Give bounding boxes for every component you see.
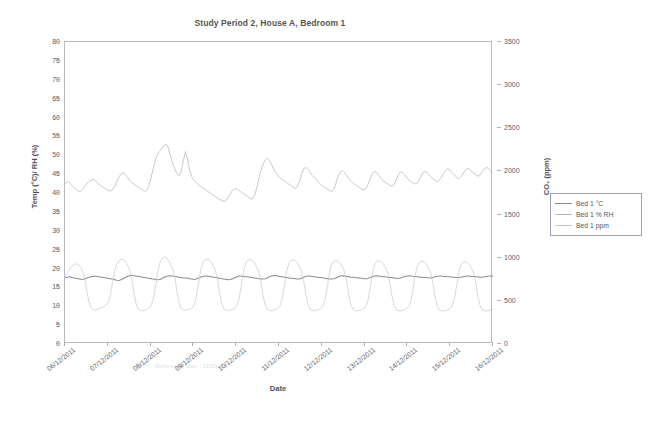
x-axis-tick-label: 15/12/2011 — [431, 346, 462, 372]
x-axis-tick-label: 14/12/2011 — [388, 346, 419, 372]
x-axis-tickmark — [278, 342, 279, 346]
x-axis-tickmark — [321, 342, 322, 346]
y-axis-right-tickmark — [497, 343, 501, 344]
y-axis-right-tickmark — [497, 257, 501, 258]
y-axis-left-tickmark — [56, 286, 60, 287]
y-axis-right-tickmark — [497, 84, 501, 85]
legend-label: Bed 1 ppm — [576, 222, 609, 229]
legend-label: Bed 1 % RH — [576, 211, 613, 218]
y-axis-right-ticks: 3500300025002000150010005000 — [497, 41, 537, 343]
x-axis-tickmark — [364, 342, 365, 346]
x-axis-tickmark — [235, 342, 236, 346]
x-axis-tickmark — [192, 342, 193, 346]
x-axis-tick-label: 16/12/2011 — [474, 346, 505, 372]
y-axis-right-tick: 2000 — [504, 167, 520, 174]
x-axis-tick-label: 13/12/2011 — [345, 346, 376, 372]
x-axis-tick-label: 07/12/2011 — [88, 346, 119, 372]
x-axis-tickmark — [449, 342, 450, 346]
x-axis-tick-label: 09/12/2011 — [174, 346, 205, 372]
y-axis-left-tickmark — [56, 211, 60, 212]
y-axis-left-tickmark — [56, 117, 60, 118]
y-axis-right-tick: 3000 — [504, 81, 520, 88]
legend-label: Bed 1 °C — [576, 200, 603, 207]
x-axis-tick-label: 06/12/2011 — [46, 346, 77, 372]
y-axis-left-tickmark — [56, 98, 60, 99]
y-axis-right-tickmark — [497, 170, 501, 171]
y-axis-left-tickmark — [56, 192, 60, 193]
y-axis-right-tick: 500 — [504, 296, 516, 303]
x-axis-tickmark — [406, 342, 407, 346]
x-axis-label: Date — [64, 384, 492, 393]
series-line — [65, 257, 493, 311]
y-axis-left-tickmark — [56, 230, 60, 231]
series-line — [65, 144, 493, 201]
y-axis-left-tickmark — [56, 60, 60, 61]
y-axis-right-tickmark — [497, 214, 501, 215]
plot-series-svg — [65, 42, 493, 344]
y-axis-left-tickmark — [56, 79, 60, 80]
x-axis-tickmark — [107, 342, 108, 346]
y-axis-left-tickmark — [56, 305, 60, 306]
legend-swatch — [555, 214, 572, 215]
legend-item[interactable]: Bed 1 ppm — [555, 220, 635, 231]
legend-item[interactable]: Bed 1 °C — [555, 198, 635, 209]
chart-figure: Study Period 2, House A, Bedroom 1 Temp … — [0, 0, 658, 422]
y-axis-left-tickmark — [56, 135, 60, 136]
legend-swatch — [555, 225, 572, 226]
x-axis-tickmark — [492, 342, 493, 346]
x-axis-tick-label: 12/12/2011 — [302, 346, 333, 372]
y-axis-right-tick: 0 — [504, 340, 508, 347]
x-axis-tick-label: 11/12/2011 — [260, 346, 290, 372]
chart-title: Study Period 2, House A, Bedroom 1 — [0, 18, 540, 28]
x-axis-tickmark — [64, 342, 65, 346]
y-axis-right-tickmark — [497, 300, 501, 301]
y-axis-left-tickmark — [56, 173, 60, 174]
x-axis-tickmark — [150, 342, 151, 346]
y-axis-right-tick: 1500 — [504, 210, 520, 217]
series-line — [65, 275, 493, 280]
chart-legend: Bed 1 °CBed 1 % RHBed 1 ppm — [550, 193, 642, 236]
y-axis-right-tick: 1000 — [504, 253, 520, 260]
x-axis-tick-label: 10/12/2011 — [217, 346, 248, 372]
y-axis-right-tick: 3500 — [504, 38, 520, 45]
y-axis-right-tick: 2500 — [504, 124, 520, 131]
legend-swatch — [555, 203, 572, 204]
y-axis-left-tickmark — [56, 41, 60, 42]
y-axis-left-tickmark — [56, 324, 60, 325]
y-axis-left-ticks: 80757065605550454035302520151050 — [28, 41, 60, 343]
legend-item[interactable]: Bed 1 % RH — [555, 209, 635, 220]
x-axis-tick-label: 08/12/2011 — [131, 346, 162, 372]
y-axis-left-tickmark — [56, 154, 60, 155]
y-axis-left-tickmark — [56, 343, 60, 344]
y-axis-right-tickmark — [497, 41, 501, 42]
plot-area: Reference Max - 1100ppm — [64, 41, 492, 343]
y-axis-left-tickmark — [56, 249, 60, 250]
y-axis-right-tickmark — [497, 127, 501, 128]
y-axis-left-tickmark — [56, 268, 60, 269]
